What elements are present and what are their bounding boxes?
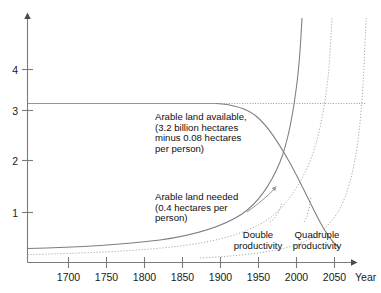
x-tick-label-1750: 1750 [95,272,118,283]
x-tick-label-2000: 2000 [285,272,308,283]
y-tick-label-2: 2 [4,155,18,166]
double-productivity-pointer [247,189,274,212]
x-tick-label-1900: 1900 [209,272,232,283]
x-tick-label-1850: 1850 [171,272,194,283]
y-tick-label-4: 4 [4,64,18,75]
chart-container: 4 3 2 1 1700 1750 1800 1850 1900 1950 20… [0,0,381,293]
y-tick-label-3: 3 [4,105,18,116]
x-tick-label-2050: 2050 [323,272,346,283]
arable-land-available-annotation: Arable land available, (3.2 billion hect… [155,112,247,154]
arable-land-needed-annotation: Arable land needed (0.4 hectares per per… [155,192,238,224]
y-tick-label-1: 1 [4,207,18,218]
double-productivity-label: Double productivity [234,230,283,251]
leader-lines [270,196,311,222]
x-tick-label-1700: 1700 [57,272,80,283]
annotation-pointers [247,189,274,212]
x-tick-label-1800: 1800 [133,272,156,283]
quadruple-productivity-leader [304,196,311,222]
x-axis-title: Year [355,272,376,283]
x-tick-label-1950: 1950 [247,272,270,283]
quadruple-productivity-label: Quadruple productivity [293,230,342,251]
